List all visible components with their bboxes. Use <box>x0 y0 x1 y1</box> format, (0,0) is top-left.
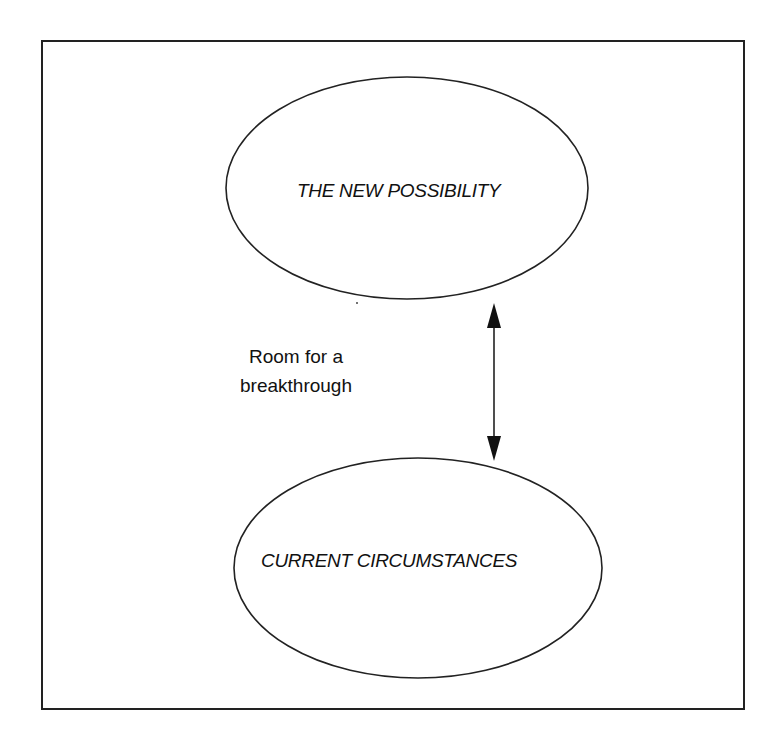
diagram-shapes <box>0 0 781 743</box>
double-arrow-icon <box>487 303 501 461</box>
new-possibility-label: THE NEW POSSIBILITY <box>297 180 500 202</box>
speck <box>356 302 358 304</box>
gap-label-line1: Room for a <box>216 342 376 371</box>
gap-label: Room for a breakthrough <box>216 342 376 400</box>
gap-label-line2: breakthrough <box>216 371 376 400</box>
current-circumstances-label: CURRENT CIRCUMSTANCES <box>261 550 517 572</box>
